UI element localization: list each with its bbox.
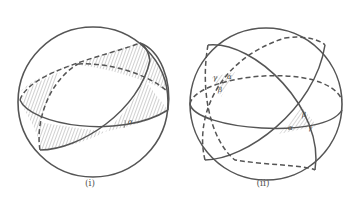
figure-ii: γ α β β α γ (ii) (175, 0, 353, 214)
front-beta-label: β (301, 111, 306, 119)
sphere-outline (190, 28, 342, 180)
figure-i: α (i) (0, 0, 180, 214)
back-beta-label: β (217, 86, 222, 94)
figure-caption-i: (i) (72, 178, 108, 188)
front-alpha-label: α (288, 124, 293, 132)
back-alpha-label: α (227, 73, 232, 81)
angle-alpha-label: α (128, 118, 133, 126)
figure-caption-ii: (ii) (245, 178, 281, 188)
